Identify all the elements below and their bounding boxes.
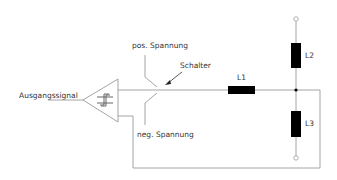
switch-pointer-arrow (165, 72, 182, 85)
label-pos-voltage: pos. Spannung (132, 41, 188, 50)
inductor-l1 (228, 86, 255, 94)
circuit-diagram: Ausgangssignal pos. Spannung Schalter ne… (0, 0, 337, 180)
label-output-signal: Ausgangssignal (19, 91, 78, 100)
junction-dot (294, 88, 297, 91)
pos-contact (145, 55, 157, 87)
neg-contact (145, 93, 157, 125)
feedback-wire (118, 90, 320, 168)
inductor-l3 (291, 111, 301, 137)
schmitt-trigger-icon (97, 94, 113, 106)
label-l2: L2 (305, 51, 314, 60)
inductor-l2 (291, 43, 301, 68)
label-l3: L3 (305, 119, 314, 128)
label-switch: Schalter (180, 61, 212, 70)
terminal-bottom-icon (294, 156, 298, 160)
label-neg-voltage: neg. Spannung (137, 130, 194, 139)
label-l1: L1 (237, 73, 246, 82)
amplifier-triangle (83, 79, 118, 122)
terminal-top-icon (294, 17, 298, 21)
